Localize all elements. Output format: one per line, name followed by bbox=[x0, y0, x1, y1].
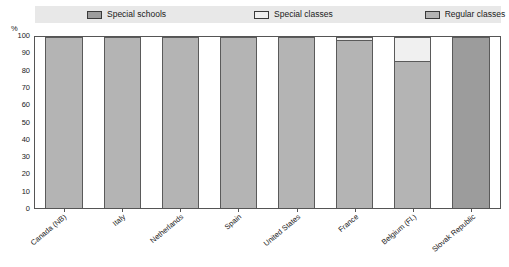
x-label-slot: United States bbox=[268, 209, 326, 267]
chart-legend: Special schools Special classes Regular … bbox=[35, 6, 501, 23]
bar-segment-special-schools bbox=[452, 37, 489, 208]
legend-item-regular-classes: Regular classes bbox=[425, 10, 505, 19]
x-label-slot: Canada (NB) bbox=[34, 209, 92, 267]
stacked-bar[interactable] bbox=[452, 37, 489, 208]
chart-plot-area bbox=[34, 36, 501, 209]
bar-slot[interactable] bbox=[35, 37, 93, 208]
bar-slot[interactable] bbox=[93, 37, 151, 208]
stacked-bar[interactable] bbox=[45, 37, 82, 208]
y-axis-tick-label: 20 bbox=[4, 171, 30, 179]
bar-slot[interactable] bbox=[326, 37, 384, 208]
x-label-slot: Spain bbox=[209, 209, 267, 267]
y-axis-tick-label: 30 bbox=[4, 153, 30, 161]
bar-segment-regular-classes bbox=[104, 37, 141, 208]
y-axis-tick-label: 60 bbox=[4, 101, 30, 109]
x-axis-category-label: Canada (NB) bbox=[30, 213, 68, 247]
x-axis-category-label: Netherlands bbox=[149, 213, 185, 245]
y-axis-tick-label: 40 bbox=[4, 136, 30, 144]
x-label-slot: France bbox=[326, 209, 384, 267]
stacked-bar[interactable] bbox=[104, 37, 141, 208]
legend-label-regular-classes: Regular classes bbox=[445, 10, 505, 19]
bar-slot[interactable] bbox=[151, 37, 209, 208]
y-axis-tick-label: 100 bbox=[4, 32, 30, 40]
y-axis-tick-label: 10 bbox=[4, 188, 30, 196]
legend-swatch-special-schools-icon bbox=[87, 11, 102, 19]
x-axis-labels: Canada (NB)ItalyNetherlandsSpainUnited S… bbox=[34, 209, 501, 267]
y-axis-tick-label: 80 bbox=[4, 67, 30, 75]
bar-segment-regular-classes bbox=[162, 37, 199, 208]
stacked-bar[interactable] bbox=[394, 37, 431, 208]
y-axis-tick-label: 0 bbox=[4, 205, 30, 213]
bar-slot[interactable] bbox=[442, 37, 500, 208]
y-axis-labels: 1009080706050403020100 bbox=[0, 36, 30, 209]
x-axis-category-label: Spain bbox=[224, 213, 244, 231]
y-axis-tick-label: 90 bbox=[4, 50, 30, 58]
stacked-bar[interactable] bbox=[278, 37, 315, 208]
bar-slot[interactable] bbox=[268, 37, 326, 208]
legend-item-special-classes: Special classes bbox=[254, 10, 333, 19]
x-axis-category-label: Belgium (Fl.) bbox=[381, 213, 418, 246]
legend-swatch-regular-classes-icon bbox=[425, 11, 440, 19]
legend-item-special-schools: Special schools bbox=[87, 10, 166, 19]
x-label-slot: Belgium (Fl.) bbox=[384, 209, 442, 267]
bar-slot[interactable] bbox=[209, 37, 267, 208]
stacked-bar[interactable] bbox=[162, 37, 199, 208]
bar-segment-regular-classes bbox=[220, 37, 257, 208]
stacked-bar[interactable] bbox=[336, 37, 373, 208]
bar-segment-special-classes bbox=[394, 37, 431, 61]
x-label-slot: Netherlands bbox=[151, 209, 209, 267]
bar-segment-regular-classes bbox=[336, 40, 373, 208]
x-axis-category-label: United States bbox=[262, 213, 301, 248]
x-axis-category-label: France bbox=[337, 213, 360, 234]
bar-segment-regular-classes bbox=[394, 61, 431, 208]
y-axis-tick-label: 70 bbox=[4, 84, 30, 92]
stacked-bar[interactable] bbox=[220, 37, 257, 208]
x-label-slot: Slovak Republic bbox=[443, 209, 501, 267]
bar-slot[interactable] bbox=[384, 37, 442, 208]
legend-swatch-special-classes-icon bbox=[254, 11, 269, 19]
x-label-slot: Italy bbox=[92, 209, 150, 267]
legend-label-special-schools: Special schools bbox=[107, 10, 166, 19]
y-axis-tick-label: 50 bbox=[4, 119, 30, 127]
x-axis-category-label: Italy bbox=[111, 213, 126, 228]
bar-segment-regular-classes bbox=[45, 37, 82, 208]
bar-segment-regular-classes bbox=[278, 37, 315, 208]
legend-label-special-classes: Special classes bbox=[274, 10, 333, 19]
